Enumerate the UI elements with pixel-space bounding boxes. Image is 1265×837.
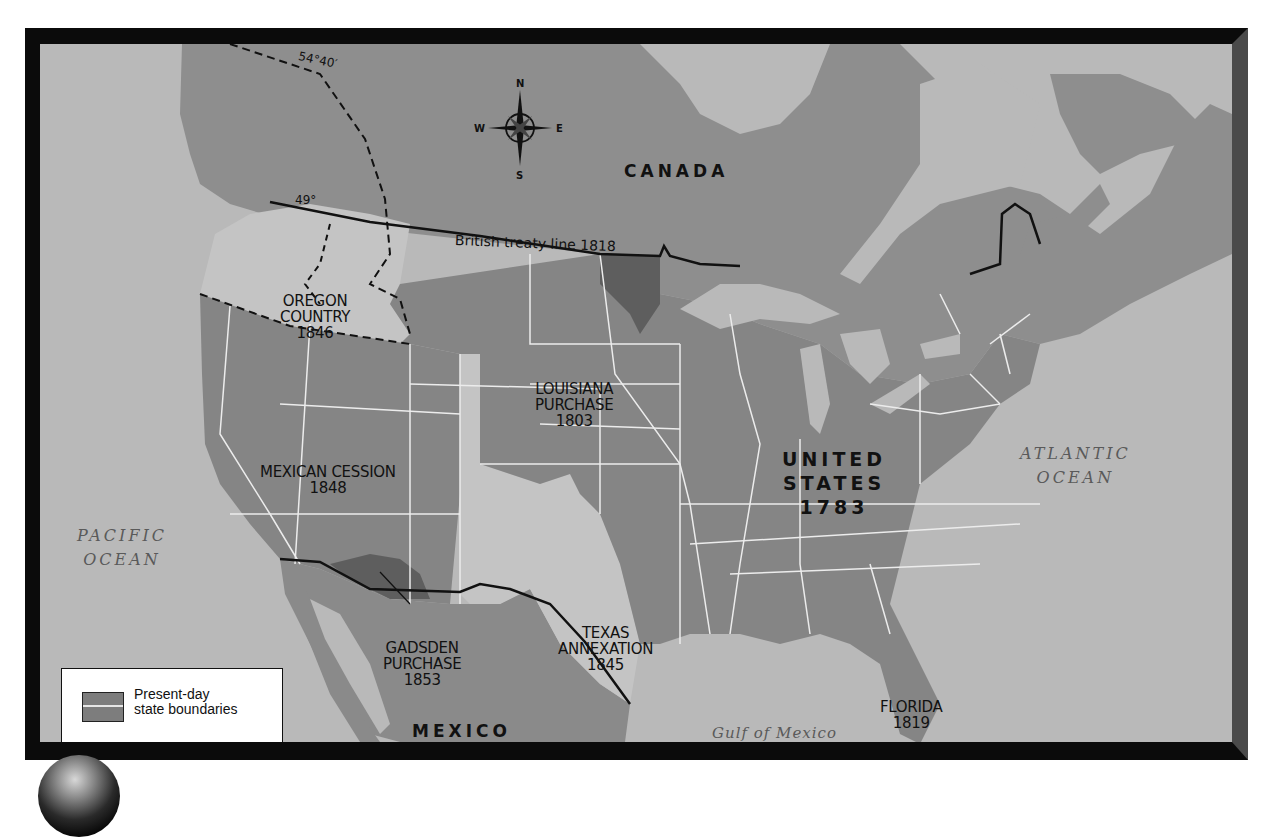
svg-text:S: S xyxy=(516,170,523,181)
label-canada: CANADA xyxy=(624,162,728,180)
label-mexican-cession: MEXICAN CESSION1848 xyxy=(260,464,396,496)
label-49-degrees: 49° xyxy=(295,194,316,207)
legend-label: Present-day state boundaries xyxy=(134,687,238,718)
svg-text:W: W xyxy=(474,123,485,134)
map-frame: N S E W CANADA MEXICO British treaty lin… xyxy=(25,28,1248,760)
label-atlantic-ocean: ATLANTICOCEAN xyxy=(1020,442,1131,490)
label-texas-annexation: TEXASANNEXATION1845 xyxy=(558,625,653,674)
globe-icon xyxy=(38,755,120,837)
svg-text:N: N xyxy=(516,78,524,89)
map-legend: Present-day state boundaries xyxy=(61,668,283,742)
label-gulf-of-mexico: Gulf of Mexico xyxy=(712,725,837,741)
label-florida: FLORIDA1819 xyxy=(880,699,943,731)
svg-text:E: E xyxy=(556,123,563,134)
label-united-states: UNITEDSTATES1783 xyxy=(782,448,886,519)
label-gadsden-purchase: GADSDENPURCHASE1853 xyxy=(383,640,461,689)
label-louisiana-purchase: LOUISIANAPURCHASE1803 xyxy=(535,381,613,430)
label-oregon-country: OREGONCOUNTRY1846 xyxy=(280,293,350,342)
label-pacific-ocean: PACIFICOCEAN xyxy=(77,524,167,572)
frame-bevel xyxy=(1232,28,1248,760)
territorial-expansion-map: N S E W CANADA MEXICO British treaty lin… xyxy=(40,44,1232,742)
label-mexico: MEXICO xyxy=(412,722,511,740)
legend-swatch-state-boundary xyxy=(82,692,124,722)
